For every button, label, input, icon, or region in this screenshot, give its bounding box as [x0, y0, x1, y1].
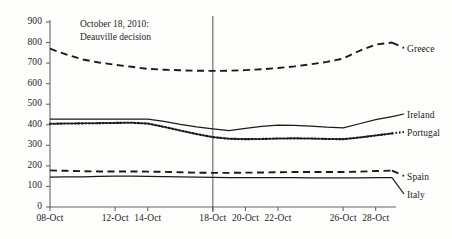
- x-axis-tick-label: 14-Oct: [125, 213, 171, 223]
- deauville-annotation: October 18, 2010: Deauville decision: [80, 18, 151, 43]
- y-axis-tick-label: 900: [12, 16, 42, 26]
- chart-series-lines: [50, 43, 392, 178]
- y-axis-tick-label: 300: [12, 139, 42, 149]
- leader-line-portugal: [392, 132, 404, 133]
- series-line-portugal: [50, 123, 392, 139]
- series-label-leader-lines: [392, 43, 404, 194]
- x-axis-tick-label: 28-Oct: [353, 213, 399, 223]
- series-line-greece: [50, 43, 392, 71]
- y-axis-tick-label: 0: [12, 201, 42, 211]
- series-label-portugal: Portugal: [407, 128, 440, 138]
- y-axis-tick-label: 700: [12, 57, 42, 67]
- x-axis-tick-label: 08-Oct: [27, 213, 73, 223]
- y-axis-tick-label: 800: [12, 37, 42, 47]
- x-axis-tick-label: 22-Oct: [255, 213, 301, 223]
- line-chart: 0100200300400500600700800900 08-Oct12-Oc…: [0, 0, 452, 239]
- leader-line-ireland: [392, 114, 404, 117]
- y-axis-tick-label: 100: [12, 180, 42, 190]
- y-axis-tick-label: 600: [12, 78, 42, 88]
- series-label-ireland: Ireland: [407, 110, 435, 120]
- annotation-line-1: October 18, 2010:: [80, 19, 149, 29]
- series-label-italy: Italy: [407, 190, 425, 200]
- chart-canvas: [0, 0, 452, 239]
- chart-axes: [46, 20, 396, 211]
- y-axis-tick-label: 500: [12, 98, 42, 108]
- leader-line-spain: [392, 171, 404, 176]
- leader-line-greece: [392, 43, 404, 48]
- y-axis-tick-label: 200: [12, 160, 42, 170]
- y-axis-tick-label: 400: [12, 119, 42, 129]
- series-line-italy: [50, 176, 392, 178]
- series-label-greece: Greece: [407, 44, 435, 54]
- leader-line-italy: [392, 178, 404, 194]
- series-line-spain: [50, 170, 392, 172]
- series-label-spain: Spain: [407, 172, 429, 182]
- annotation-line-2: Deauville decision: [80, 31, 151, 44]
